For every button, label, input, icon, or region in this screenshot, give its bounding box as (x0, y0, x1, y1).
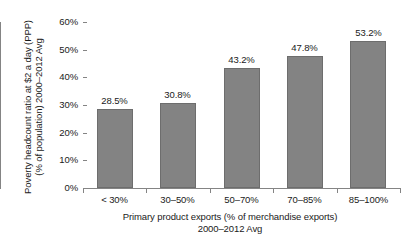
x-axis-title: Primary product exports (% of merchandis… (60, 211, 400, 235)
x-axis-title-line-1: Primary product exports (% of merchandis… (60, 211, 400, 223)
bar (160, 103, 196, 188)
x-axis-category-label: 30–50% (146, 194, 209, 205)
x-axis-tick (273, 189, 274, 193)
y-axis-tick-label-wrap: 0% (42, 188, 78, 189)
y-axis-tick-label: 60% (44, 17, 78, 27)
y-axis-tick-label-wrap: 20% (42, 133, 78, 134)
y-axis-tick-label-wrap: 50% (42, 50, 78, 51)
x-axis-tick (337, 189, 338, 193)
x-axis-category-label: < 30% (83, 194, 146, 205)
bar-value-label: 53.2% (337, 28, 400, 38)
bar (224, 68, 260, 188)
y-axis-tick (83, 77, 87, 78)
y-axis-tick-label: 10% (44, 155, 78, 165)
y-axis-tick (83, 50, 87, 51)
x-axis-tick (146, 189, 147, 193)
bar-value-label: 43.2% (210, 55, 273, 65)
x-axis-category-label: 50–70% (210, 194, 273, 205)
y-axis-tick-label: 30% (44, 100, 78, 110)
x-axis-title-line-2: 2000–2012 Avg (60, 223, 400, 235)
y-axis-tick-label: 0% (44, 183, 78, 193)
x-axis-tick (400, 189, 401, 193)
y-axis-title-line-2: (% of population) 2000–2012 Avg (33, 38, 45, 175)
y-axis-tick (83, 160, 87, 161)
x-axis-category-label: 70–85% (273, 194, 336, 205)
y-axis-line (0, 22, 1, 189)
bar (287, 56, 323, 188)
y-axis-tick-label-wrap: 60% (42, 22, 78, 23)
y-axis-tick-label: 50% (44, 45, 78, 55)
bar-value-label: 28.5% (83, 96, 146, 106)
x-axis-line (83, 188, 401, 189)
bar (97, 109, 133, 188)
x-axis-tick (210, 189, 211, 193)
x-axis-tick (83, 189, 84, 193)
y-axis-tick-label: 40% (44, 72, 78, 82)
y-axis-tick-label-wrap: 30% (42, 105, 78, 106)
y-axis-title-line-1: Poverty headcount ratio at $2 a day (PPP… (22, 20, 34, 194)
bar-value-label: 30.8% (146, 90, 209, 100)
bar-chart: Poverty headcount ratio at $2 a day (PPP… (0, 0, 416, 248)
bar (350, 41, 386, 188)
x-axis-category-label: 85–100% (337, 194, 400, 205)
y-axis-tick-label: 20% (44, 128, 78, 138)
y-axis-tick-label-wrap: 10% (42, 160, 78, 161)
y-axis-tick (83, 22, 87, 23)
y-axis-tick (83, 133, 87, 134)
y-axis-tick-label-wrap: 40% (42, 77, 78, 78)
bar-value-label: 47.8% (273, 43, 336, 53)
